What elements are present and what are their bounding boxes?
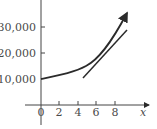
x-tick-label: 6: [93, 106, 100, 119]
x-tick-label: 2: [56, 106, 63, 119]
chart: 30,000 20,000 10,000 0 2 4 6 8 x: [0, 0, 157, 129]
x-tick-label: 4: [75, 106, 82, 119]
x-axis-label: x: [140, 106, 147, 119]
tangent-line: [83, 30, 127, 78]
y-tick-label: 10,000: [0, 73, 36, 86]
x-ticks: [59, 101, 115, 105]
y-tick-label: 30,000: [0, 21, 36, 34]
x-tick-label: 8: [112, 106, 119, 119]
exponential-curve: [41, 13, 127, 79]
y-ticks: [41, 27, 45, 53]
y-tick-label: 20,000: [0, 47, 36, 60]
x-tick-label: 0: [38, 106, 45, 119]
